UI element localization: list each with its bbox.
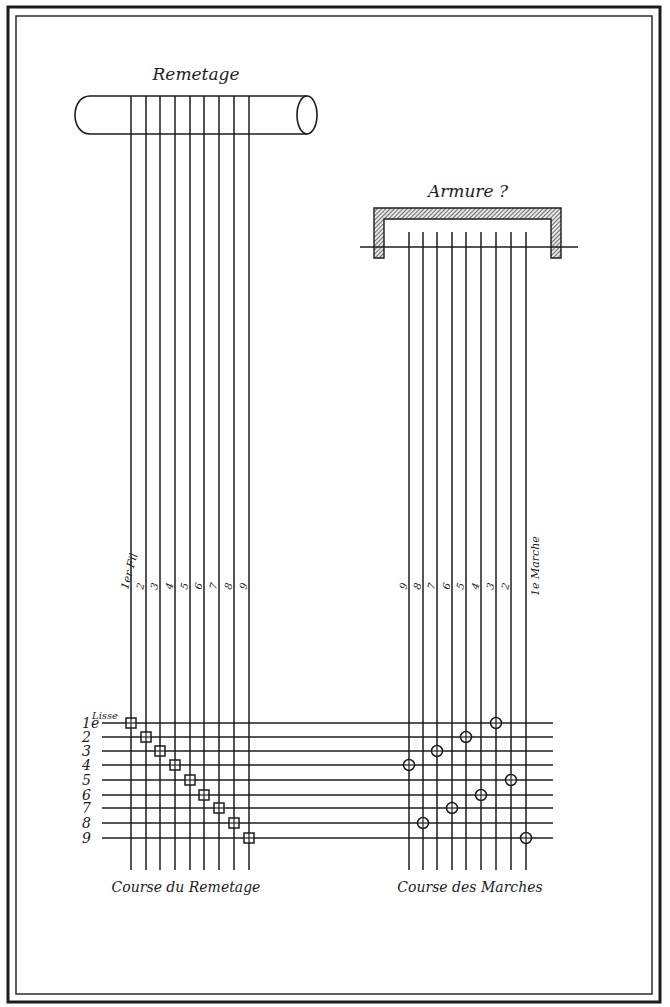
circle-mark — [506, 775, 517, 786]
square-mark — [229, 818, 239, 828]
thread-label: 2 — [134, 582, 147, 592]
thread-label: 3 — [148, 582, 160, 591]
circle-mark — [476, 790, 487, 801]
remetage-title: Remetage — [152, 64, 240, 84]
row-label: 5 — [82, 772, 91, 788]
circle-mark — [491, 718, 502, 729]
circle-mark — [461, 732, 472, 743]
armure-frame — [360, 208, 578, 258]
course-du-remetage-caption: Course du Remetage — [112, 879, 261, 895]
plate-frame — [8, 7, 660, 1002]
square-mark — [170, 760, 180, 770]
circle-mark — [404, 760, 415, 771]
row-label: 9 — [82, 830, 91, 846]
thread-label: 4 — [163, 582, 176, 592]
thread-label: 9 — [237, 581, 249, 591]
warp-beam-roller — [75, 96, 317, 134]
square-mark — [199, 790, 209, 800]
marche-label: 4 — [469, 582, 482, 592]
thread-label: 8 — [222, 582, 234, 591]
circle-mark — [432, 746, 443, 757]
marche-label: 3 — [484, 582, 496, 591]
marche-label: 8 — [411, 582, 423, 591]
circle-mark — [418, 818, 429, 829]
marche-label: 9 — [397, 581, 409, 591]
marche-labels: 987654321e Marche — [397, 536, 542, 596]
square-mark — [185, 775, 195, 785]
thread-label: 7 — [207, 581, 219, 591]
square-mark — [126, 718, 136, 728]
circle-mark — [521, 833, 532, 844]
lisse-row-labels: 1e23456789 — [81, 715, 99, 846]
marche-label: 5 — [454, 582, 466, 591]
marche-label: 6 — [440, 581, 452, 591]
row-label: 8 — [82, 815, 91, 831]
remetage-thread-labels: 1er Fil23456789 — [118, 551, 249, 591]
row-label: 7 — [82, 800, 91, 816]
remetage-threads — [131, 96, 249, 870]
circle-mark — [447, 803, 458, 814]
marche-label: 1e Marche — [529, 536, 542, 596]
course-des-marches-caption: Course des Marches — [397, 879, 542, 895]
marche-label: 7 — [425, 581, 437, 591]
weaving-plate: Remetage Armure ? 1er Fil23456789 987654… — [0, 0, 670, 1007]
square-mark — [214, 803, 224, 813]
square-mark — [244, 833, 254, 843]
thread-label: 5 — [178, 582, 190, 591]
square-mark — [141, 732, 151, 742]
thread-label: 6 — [192, 581, 204, 591]
armure-title: Armure ? — [426, 181, 509, 201]
row-label: 4 — [81, 757, 91, 773]
marche-label: 2 — [499, 582, 512, 592]
square-mark — [155, 746, 165, 756]
